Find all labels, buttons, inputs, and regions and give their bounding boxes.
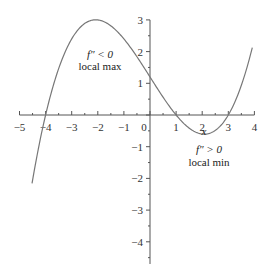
local-min-label: local min [188,156,230,168]
x-tick-label: −3 [66,121,78,133]
x-tick-label: 1 [173,121,179,133]
x-tick-label: −2 [92,121,104,133]
local-max-label: local max [78,60,122,72]
local-min-condition: f″ > 0 [196,143,223,155]
x-tick-label: 3 [226,121,232,133]
local-max-condition: f″ < 0 [87,48,114,60]
y-tick-label: −1 [131,141,143,153]
x-tick-label: −1 [118,121,130,133]
x-tick-label: 0 [141,121,147,133]
y-tick-label: 2 [138,46,144,58]
y-tick-label: −4 [131,236,143,248]
x-tick-label: −5 [14,121,26,133]
x-tick-label: 4 [252,121,258,133]
y-tick-label: 3 [138,14,144,26]
y-tick-label: −3 [131,204,143,216]
y-tick-label: 1 [138,77,144,89]
x-axis-label: x [201,125,207,137]
tick-labels: −5−4−3−2−101234321−1−2−3−4 [14,14,258,248]
chart: −5−4−3−2−101234321−1−2−3−4 x f″ < 0 loca… [0,0,270,275]
y-tick-label: −2 [131,172,143,184]
